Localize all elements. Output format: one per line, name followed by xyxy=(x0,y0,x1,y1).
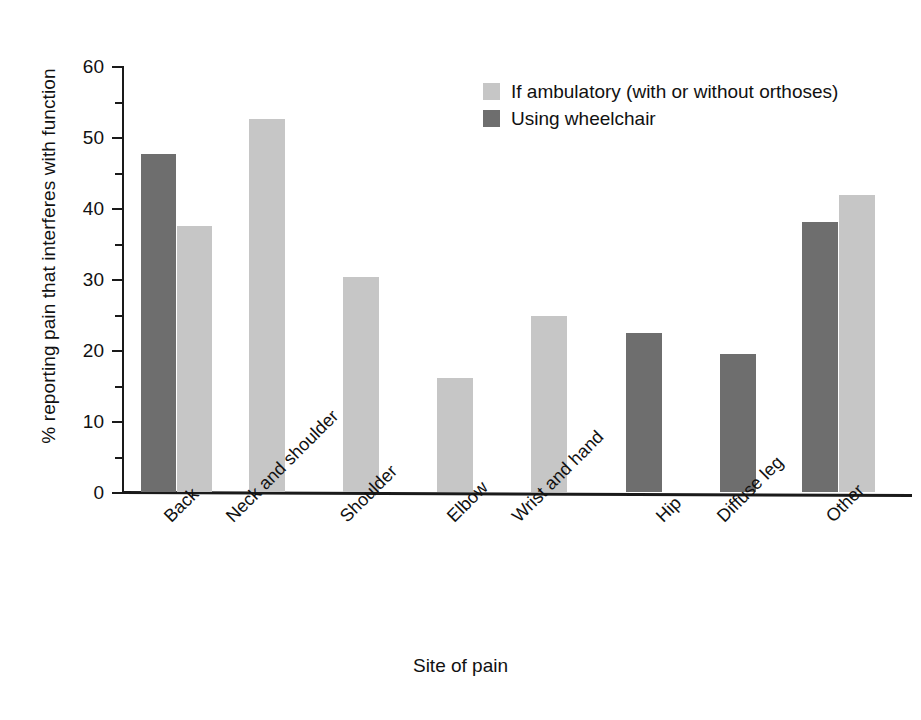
y-tick-major-40 xyxy=(112,208,123,210)
y-tick-minor-55 xyxy=(115,102,123,104)
bar-back-ambulatory xyxy=(177,226,212,492)
legend-label: Using wheelchair xyxy=(511,108,656,130)
y-tick-major-50 xyxy=(112,137,123,139)
bar-shoulder-ambulatory xyxy=(343,277,379,492)
bar-diffuse-leg-wheelchair xyxy=(720,354,756,492)
bar-hip-wheelchair xyxy=(626,333,662,492)
y-tick-label-60: 60 xyxy=(64,57,104,76)
bar-other-wheelchair xyxy=(802,222,838,493)
bar-other-ambulatory xyxy=(839,195,875,492)
y-tick-label-20: 20 xyxy=(64,341,104,360)
y-tick-minor-25 xyxy=(115,315,123,317)
x-axis-title: Site of pain xyxy=(0,655,921,677)
y-tick-major-60 xyxy=(112,66,123,68)
y-axis-title: % reporting pain that interferes with fu… xyxy=(38,21,60,491)
legend-item-1: Using wheelchair xyxy=(483,105,838,132)
legend-label: If ambulatory (with or without orthoses) xyxy=(511,81,838,103)
y-tick-label-40: 40 xyxy=(64,199,104,218)
y-tick-major-30 xyxy=(112,279,123,281)
bar-back-wheelchair xyxy=(141,154,176,492)
y-tick-minor-45 xyxy=(115,173,123,175)
y-tick-major-10 xyxy=(112,421,123,423)
y-tick-label-0: 0 xyxy=(64,483,104,502)
y-tick-minor-5 xyxy=(115,457,123,459)
legend-item-0: If ambulatory (with or without orthoses) xyxy=(483,78,838,105)
y-tick-minor-15 xyxy=(115,386,123,388)
x-category-label-hip: Hip xyxy=(652,493,686,527)
y-tick-label-30: 30 xyxy=(64,270,104,289)
bar-neck-and-shoulder-ambulatory xyxy=(249,119,285,492)
legend-swatch-light-icon xyxy=(483,83,500,100)
bar-elbow-ambulatory xyxy=(437,378,473,492)
y-tick-label-50: 50 xyxy=(64,128,104,147)
chart-figure: % reporting pain that interferes with fu… xyxy=(0,0,921,720)
y-tick-major-20 xyxy=(112,350,123,352)
y-tick-minor-35 xyxy=(115,244,123,246)
y-tick-major-0 xyxy=(112,492,123,494)
y-tick-label-10: 10 xyxy=(64,412,104,431)
legend: If ambulatory (with or without orthoses)… xyxy=(483,78,838,132)
legend-swatch-dark-icon xyxy=(483,110,500,127)
